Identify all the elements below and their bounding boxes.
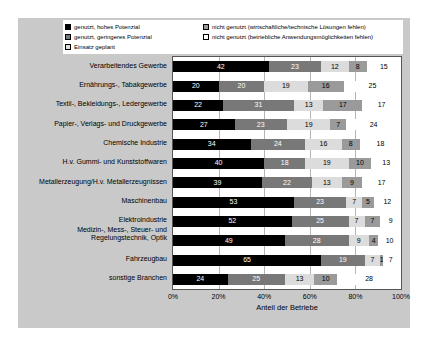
stacked-bar-row: 392213917 <box>173 177 401 188</box>
bar-segment: 16 <box>305 139 341 150</box>
bar-segment: 10 <box>314 274 337 285</box>
bar-segment: 19 <box>305 158 348 169</box>
legend-swatch-icon <box>203 24 209 30</box>
bar-segment: 10 <box>349 158 372 169</box>
bar-segment: 28 <box>337 274 401 285</box>
bar-value-label: 9 <box>350 179 354 187</box>
bar-segment: 12 <box>374 197 401 208</box>
legend-swatch-icon <box>65 44 71 50</box>
bar-segment: 53 <box>173 197 294 208</box>
bar-value-label: 12 <box>383 198 391 206</box>
bar-segment: 5 <box>362 197 373 208</box>
bar-value-label: 23 <box>316 198 324 206</box>
bar-segment: 20 <box>219 81 265 92</box>
bar-segment: 8 <box>349 61 367 72</box>
bar-value-label: 13 <box>323 179 331 187</box>
bar-value-label: 23 <box>257 121 265 129</box>
category-label: Medizin-, Mess-, Steuer- undRegelungstec… <box>35 226 167 242</box>
bar-value-label: 7 <box>371 217 375 225</box>
category-label: Fahrzeugbau <box>35 255 167 263</box>
category-label: H.v. Gummi- und Kunststoffwaren <box>35 158 167 166</box>
category-axis-labels: Verarbeitendes GewerbeErnährungs-, Tabak… <box>36 56 170 290</box>
bar-value-label: 49 <box>225 237 233 245</box>
bar-value-label: 12 <box>331 63 339 71</box>
category-label: Maschinenbau <box>35 197 167 205</box>
bar-value-label: 24 <box>274 140 282 148</box>
bar-value-label: 13 <box>296 275 304 283</box>
bar-value-label: 18 <box>281 159 289 167</box>
bar-segment: 9 <box>349 235 370 246</box>
bar-segment: 27 <box>173 119 235 130</box>
bar-value-label: 13 <box>305 101 313 109</box>
category-label: Elektroindustrie <box>35 216 167 224</box>
plot-area: 4223128152020191625223113171727231972434… <box>172 56 402 290</box>
bar-value-label: 65 <box>243 256 251 264</box>
bar-value-label: 18 <box>377 140 385 148</box>
bar-value-label: 17 <box>378 101 386 109</box>
bar-segment: 19 <box>287 119 330 130</box>
bar-segment: 16 <box>308 81 344 92</box>
category-label: Textil-, Bekleidungs-, Ledergewerbe <box>35 100 167 108</box>
bar-segment: 52 <box>173 216 292 227</box>
category-label: Papier-, Verlags- und Druckgewerbe <box>35 120 167 128</box>
x-tick-label: 80% <box>348 293 362 301</box>
bar-value-label: 7 <box>352 198 356 206</box>
bar-segment: 24 <box>173 274 228 285</box>
bar-segment: 13 <box>371 158 401 169</box>
stacked-bar-row: 5225779 <box>173 216 401 227</box>
bar-value-label: 19 <box>339 256 347 264</box>
bar-segment: 42 <box>173 61 269 72</box>
stacked-bar-row: 2020191625 <box>173 81 401 92</box>
x-tick-label: 20% <box>212 293 226 301</box>
bar-value-label: 16 <box>320 140 328 148</box>
x-tick-label: 60% <box>303 293 317 301</box>
bar-segment: 17 <box>362 177 401 188</box>
legend-item-einsatz-geplant: Einsatz geplant <box>65 42 203 52</box>
stacked-bars: 4223128152020191625223113171727231972434… <box>173 57 401 289</box>
bar-segment: 25 <box>344 81 401 92</box>
bar-value-label: 17 <box>378 179 386 187</box>
bar-segment: 4 <box>369 235 378 246</box>
bar-segment: 17 <box>323 100 362 111</box>
bar-value-label: 20 <box>237 82 245 90</box>
bar-segment: 49 <box>173 235 285 246</box>
bar-value-label: 53 <box>230 198 238 206</box>
chart-legend: genutzt, hohes Potenzial genutzt, gering… <box>63 20 403 54</box>
bar-segment: 23 <box>269 61 321 72</box>
bar-segment: 15 <box>367 61 401 72</box>
legend-column-left: genutzt, hohes Potenzial genutzt, gering… <box>65 22 203 53</box>
bar-value-label: 9 <box>357 237 361 245</box>
bar-value-label: 28 <box>313 237 321 245</box>
bar-value-label: 39 <box>214 179 222 187</box>
category-label: Metallerzeugung/H.v. Metallerzeugnissen <box>35 178 167 186</box>
bar-value-label: 19 <box>323 159 331 167</box>
bar-segment: 7 <box>365 216 381 227</box>
x-axis-ticks: 0%20%40%60%80%100% <box>172 291 402 303</box>
bar-value-label: 27 <box>200 121 208 129</box>
bar-value-label: 25 <box>369 82 377 90</box>
bar-segment: 10 <box>378 235 401 246</box>
bar-value-label: 16 <box>322 82 330 90</box>
bar-value-label: 8 <box>356 63 360 71</box>
bar-value-label: 52 <box>228 217 236 225</box>
bar-segment: 13 <box>294 100 324 111</box>
bar-value-label: 7 <box>336 121 340 129</box>
legend-swatch-icon <box>203 34 209 40</box>
bar-value-label: 13 <box>382 159 390 167</box>
bar-value-label: 10 <box>322 275 330 283</box>
bar-segment: 13 <box>285 274 315 285</box>
stacked-bar-row: 49289410 <box>173 235 401 246</box>
legend-item-genutzt-hohes-potenzial: genutzt, hohes Potenzial <box>65 22 203 32</box>
stacked-bar-row: 272319724 <box>173 119 401 130</box>
bar-value-label: 15 <box>380 63 388 71</box>
bar-value-label: 25 <box>316 217 324 225</box>
bar-segment: 40 <box>173 158 264 169</box>
category-label: Ernährungs-, Tabakgewerbe <box>35 81 167 89</box>
stacked-bar-row: 2425131028 <box>173 274 401 285</box>
bar-value-label: 8 <box>349 140 353 148</box>
bar-segment: 25 <box>228 274 285 285</box>
bar-segment: 7 <box>346 197 362 208</box>
bar-segment: 31 <box>223 100 294 111</box>
bar-segment: 22 <box>262 177 312 188</box>
legend-label: nicht genutzt (betriebliche Anwendungsmö… <box>212 34 373 41</box>
